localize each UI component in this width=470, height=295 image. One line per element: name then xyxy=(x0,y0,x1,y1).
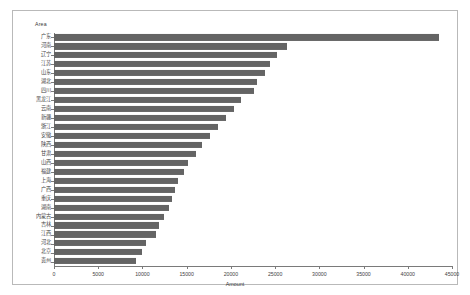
bar[interactable] xyxy=(54,258,136,264)
x-axis-tick-label: 25000 xyxy=(268,271,282,277)
bar[interactable] xyxy=(54,124,218,130)
bar-row[interactable]: 内蒙古 xyxy=(54,212,452,221)
chart-frame: Area 广东河南辽宁江苏山东湖北四川黑龙江云南新疆浙江安徽陕西甘肃山西福建上海… xyxy=(12,10,458,285)
bar-row[interactable]: 河南 xyxy=(54,42,452,51)
y-axis-tick xyxy=(51,235,54,236)
x-axis-tick-label: 35000 xyxy=(356,271,370,277)
y-axis-tick xyxy=(51,118,54,119)
bar[interactable] xyxy=(54,249,142,255)
category-label: 黑龙江 xyxy=(36,98,51,103)
bar[interactable] xyxy=(54,142,202,148)
y-axis-tick xyxy=(51,136,54,137)
y-axis-tick xyxy=(51,244,54,245)
bar-row[interactable]: 辽宁 xyxy=(54,51,452,60)
category-label: 浙江 xyxy=(41,124,51,129)
bar[interactable] xyxy=(54,133,210,139)
y-axis-tick xyxy=(51,91,54,92)
bar[interactable] xyxy=(54,196,172,202)
bar-row[interactable]: 浙江 xyxy=(54,123,452,132)
category-label: 陕西 xyxy=(41,142,51,147)
bar-row[interactable]: 贵州 xyxy=(54,257,452,266)
bar[interactable] xyxy=(54,70,265,76)
bar[interactable] xyxy=(54,231,156,237)
x-axis-tick xyxy=(408,266,409,269)
category-label: 湖南 xyxy=(41,205,51,210)
bar-row[interactable]: 重庆 xyxy=(54,194,452,203)
category-label: 山东 xyxy=(41,71,51,76)
x-axis-tick-label: 5000 xyxy=(92,271,104,277)
x-axis-tick-label: 20000 xyxy=(224,271,238,277)
x-axis-tick xyxy=(275,266,276,269)
bar-row[interactable]: 云南 xyxy=(54,105,452,114)
category-label: 河北 xyxy=(41,241,51,246)
category-label: 四川 xyxy=(41,89,51,94)
x-axis-tick-label: 15000 xyxy=(179,271,193,277)
y-axis-tick xyxy=(51,100,54,101)
bar[interactable] xyxy=(54,115,226,121)
bar-row[interactable]: 湖北 xyxy=(54,78,452,87)
y-axis-tick xyxy=(51,127,54,128)
bar-row[interactable]: 安徽 xyxy=(54,131,452,140)
bar[interactable] xyxy=(54,160,188,166)
bar-row[interactable]: 黑龙江 xyxy=(54,96,452,105)
bar[interactable] xyxy=(54,97,241,103)
x-axis-title: Amount xyxy=(13,281,457,287)
x-axis-tick-label: 45000 xyxy=(445,271,459,277)
bar[interactable] xyxy=(54,34,439,40)
bar-row[interactable]: 河北 xyxy=(54,239,452,248)
category-label: 内蒙古 xyxy=(36,214,51,219)
category-label: 辽宁 xyxy=(41,53,51,58)
y-axis-tick xyxy=(51,55,54,56)
category-label: 福建 xyxy=(41,169,51,174)
bar[interactable] xyxy=(54,106,234,112)
bar-row[interactable]: 甘肃 xyxy=(54,149,452,158)
bar-row[interactable]: 四川 xyxy=(54,87,452,96)
bar-row[interactable]: 山东 xyxy=(54,69,452,78)
bar-row[interactable]: 新疆 xyxy=(54,114,452,123)
bar-row[interactable]: 北京 xyxy=(54,248,452,257)
bar-row[interactable]: 广西 xyxy=(54,185,452,194)
y-axis-tick xyxy=(51,262,54,263)
bar[interactable] xyxy=(54,52,277,58)
x-axis-tick-label: 30000 xyxy=(312,271,326,277)
category-label: 云南 xyxy=(41,106,51,111)
bar-row[interactable]: 福建 xyxy=(54,167,452,176)
x-axis-tick xyxy=(54,266,55,269)
bar-row[interactable]: 湖南 xyxy=(54,203,452,212)
bar-row[interactable]: 吉林 xyxy=(54,221,452,230)
bar[interactable] xyxy=(54,151,196,157)
category-label: 新疆 xyxy=(41,115,51,120)
bar-row[interactable]: 上海 xyxy=(54,176,452,185)
bar[interactable] xyxy=(54,169,184,175)
bar[interactable] xyxy=(54,88,254,94)
bar[interactable] xyxy=(54,213,164,219)
y-axis-tick xyxy=(51,217,54,218)
bar-row[interactable]: 陕西 xyxy=(54,140,452,149)
x-axis-tick xyxy=(231,266,232,269)
bar[interactable] xyxy=(54,222,159,228)
bar-row[interactable]: 广东 xyxy=(54,33,452,42)
bar[interactable] xyxy=(54,43,287,49)
bar[interactable] xyxy=(54,61,270,67)
y-axis-tick xyxy=(51,226,54,227)
y-axis-tick xyxy=(51,172,54,173)
bar[interactable] xyxy=(54,187,175,193)
x-axis-tick xyxy=(187,266,188,269)
bar[interactable] xyxy=(54,79,257,85)
y-axis-tick xyxy=(51,82,54,83)
category-label: 江苏 xyxy=(41,62,51,67)
y-axis-tick xyxy=(51,253,54,254)
category-label: 广东 xyxy=(41,35,51,40)
y-axis-tick xyxy=(51,145,54,146)
plot-area: 广东河南辽宁江苏山东湖北四川黑龙江云南新疆浙江安徽陕西甘肃山西福建上海广西重庆湖… xyxy=(54,33,452,266)
bar[interactable] xyxy=(54,240,146,246)
y-axis-tick xyxy=(51,46,54,47)
category-label: 上海 xyxy=(41,178,51,183)
bar-row[interactable]: 山西 xyxy=(54,158,452,167)
bar[interactable] xyxy=(54,205,169,211)
x-axis-tick-label: 0 xyxy=(53,271,56,277)
category-label: 甘肃 xyxy=(41,151,51,156)
bar[interactable] xyxy=(54,178,178,184)
bar-row[interactable]: 江苏 xyxy=(54,60,452,69)
bar-row[interactable]: 江西 xyxy=(54,230,452,239)
